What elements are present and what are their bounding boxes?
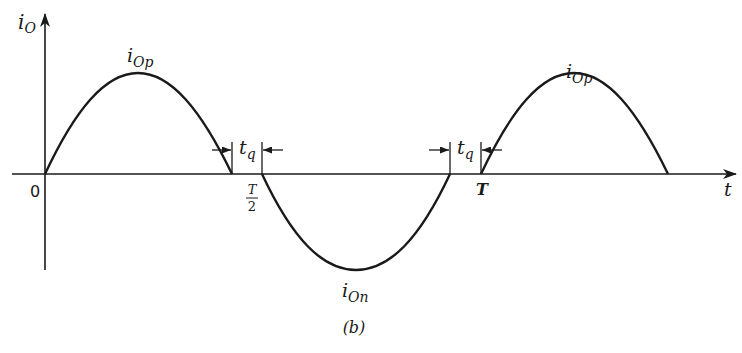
positive-half-wave-2 <box>481 73 668 174</box>
y-axis-label: iO <box>18 10 36 36</box>
figure-caption: (b) <box>343 318 366 337</box>
svg-text:2: 2 <box>248 199 256 214</box>
positive-peak-label-1: iOp <box>127 44 154 70</box>
positive-peak-label-2: iOp <box>566 60 593 86</box>
half-period-label: T 2 <box>246 182 258 214</box>
origin-label: 0 <box>30 182 40 201</box>
positive-half-wave-1 <box>45 73 232 174</box>
waveform-diagram: iO t 0 T 2 T iOp iOn iOp tq tq (b) <box>0 0 742 353</box>
tq-label-1: tq <box>239 136 256 162</box>
period-label: T <box>476 180 489 199</box>
svg-text:T: T <box>248 182 258 197</box>
negative-peak-label: iOn <box>342 279 369 305</box>
negative-half-wave <box>262 174 450 270</box>
x-axis-label: t <box>724 178 732 200</box>
tq-label-2: tq <box>457 136 474 162</box>
